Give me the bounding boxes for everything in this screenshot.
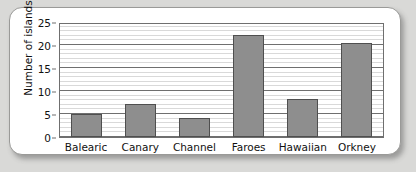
y-axis-tick-mark bbox=[52, 23, 56, 24]
chart-page: Number of islands 0510152025 BalearicCan… bbox=[0, 0, 416, 172]
y-axis-tick-label: 10 bbox=[38, 87, 51, 98]
bar-balearic[interactable] bbox=[71, 114, 102, 137]
bar-slot bbox=[114, 24, 168, 137]
bar-slot bbox=[329, 24, 383, 137]
bar-slot bbox=[168, 24, 222, 137]
x-axis-tick-label: Channel bbox=[167, 140, 221, 156]
bar-canary[interactable] bbox=[125, 104, 156, 137]
y-axis-tick-mark bbox=[52, 138, 56, 139]
bar-hawaiian[interactable] bbox=[287, 99, 318, 137]
y-axis-tick-mark bbox=[52, 92, 56, 93]
y-axis-tick-mark bbox=[52, 115, 56, 116]
x-axis-tick-label: Faroes bbox=[222, 140, 276, 156]
bar-faroes[interactable] bbox=[233, 35, 264, 137]
y-axis-tick-label: 0 bbox=[44, 133, 51, 144]
bar-series bbox=[60, 24, 383, 137]
bar-slot bbox=[60, 24, 114, 137]
bar-chart: Number of islands 0510152025 BalearicCan… bbox=[10, 8, 400, 154]
x-axis-tick-label: Orkney bbox=[330, 140, 384, 156]
x-axis-tick-label: Balearic bbox=[59, 140, 113, 156]
x-axis-tick-label: Hawaiian bbox=[276, 140, 330, 156]
bar-orkney[interactable] bbox=[341, 43, 372, 137]
bar-channel[interactable] bbox=[179, 118, 210, 137]
y-axis-ticks: 0510152025 bbox=[28, 23, 56, 138]
bar-slot bbox=[221, 24, 275, 137]
bar-slot bbox=[275, 24, 329, 137]
y-axis-tick-label: 25 bbox=[38, 18, 51, 29]
y-axis-tick-mark bbox=[52, 69, 56, 70]
y-axis-tick-label: 5 bbox=[44, 110, 51, 121]
x-axis-tick-label: Canary bbox=[113, 140, 167, 156]
chart-card: Number of islands 0510152025 BalearicCan… bbox=[9, 7, 401, 155]
y-axis-tick-mark bbox=[52, 46, 56, 47]
y-axis-tick-label: 20 bbox=[38, 41, 51, 52]
plot-area bbox=[59, 23, 384, 138]
x-axis-labels: BalearicCanaryChannelFaroesHawaiianOrkne… bbox=[59, 140, 384, 156]
y-axis-tick-label: 15 bbox=[38, 64, 51, 75]
